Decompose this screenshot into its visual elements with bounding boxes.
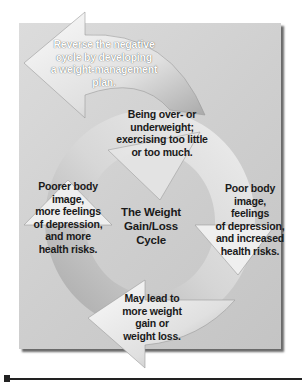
- step-reverse: Reverse the negative cycle by developing…: [44, 38, 164, 88]
- step-may-lead: May lead to more weight gain or weight l…: [112, 292, 192, 342]
- step-poor-body: Poor body image, feelings of depression,…: [210, 182, 290, 257]
- bottom-rule: [8, 378, 302, 380]
- step-over-under: Being over- or underweight; exercising t…: [108, 108, 216, 158]
- step-poorer-body: Poorer body image, more feelings of depr…: [24, 180, 112, 255]
- cycle-title: The Weight Gain/Loss Cycle: [118, 205, 184, 247]
